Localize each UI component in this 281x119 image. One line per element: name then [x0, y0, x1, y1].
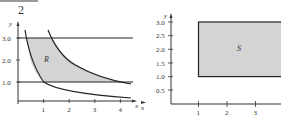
y-tick-label: 2.5: [156, 32, 165, 40]
x-tick-label: 2: [225, 109, 229, 117]
x-axis-label: x: [134, 102, 139, 110]
region-r-label: R: [43, 55, 49, 64]
figure: 2 y x 1.0 2.0 3.0 1 2 3 4: [0, 0, 281, 119]
x-axis-label: x: [140, 104, 145, 112]
y-tick-label: 3.0: [2, 35, 11, 43]
y-tick-label: 1.5: [156, 60, 165, 68]
x-tick-label: 3: [254, 109, 258, 117]
region-s-label: S: [237, 44, 241, 53]
y-axis-arrow-icon: [170, 13, 173, 18]
y-tick-label: 2.0: [156, 46, 165, 54]
x-tick-label: 2: [67, 106, 71, 114]
region-r: [27, 38, 121, 82]
y-tick-label: 1.0: [2, 79, 11, 87]
x-tick-label: 1: [197, 109, 201, 117]
y-tick-label: 1.0: [156, 73, 165, 81]
y-tick-label: 0.5: [156, 87, 165, 95]
left-graph: y x 1.0 2.0 3.0 1 2 3 4 R: [2, 20, 139, 114]
y-axis-label: y: [8, 20, 13, 28]
y-axis-arrow-icon: [17, 21, 20, 26]
x-tick-label: 3: [93, 106, 97, 114]
y-tick-label: 2.0: [2, 57, 11, 65]
x-tick-label: 1: [42, 106, 46, 114]
right-graph: y x 0.5 1.0 1.5 2.0 2.5 3.0 1 2 3 S: [140, 12, 281, 117]
y-tick-label: 3.0: [156, 19, 165, 27]
x-tick-label: 4: [118, 106, 122, 114]
figure-number: 2: [18, 3, 24, 17]
